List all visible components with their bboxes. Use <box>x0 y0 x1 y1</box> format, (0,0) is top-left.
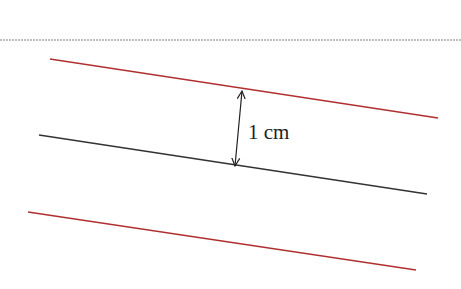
dimension-label: 1 cm <box>248 120 289 145</box>
top-offset-line <box>50 59 438 118</box>
center-line <box>39 135 427 194</box>
bottom-offset-line <box>28 212 416 270</box>
diagram-svg <box>0 0 461 289</box>
dimension-arrow <box>235 91 242 166</box>
offset-diagram: 1 cm <box>0 0 461 289</box>
